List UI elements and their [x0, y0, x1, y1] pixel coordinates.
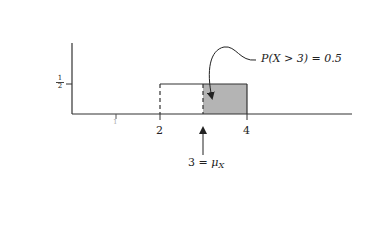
- probability-text: P(X > 3) = 0.5: [261, 52, 342, 65]
- x-tick-label-2: 2: [156, 124, 163, 137]
- fraction-denominator: 2: [56, 83, 64, 90]
- x-tick-label-4: 4: [243, 124, 250, 137]
- shaded-region: [203, 84, 247, 114]
- probability-annotation: P(X > 3) = 0.5: [261, 52, 342, 65]
- mean-label-prefix: 3 =: [188, 156, 211, 169]
- mean-label: 3 = μX: [188, 156, 224, 170]
- y-tick-label-half: 1 2: [56, 75, 64, 90]
- mu-subscript: X: [218, 161, 224, 170]
- x-tick-label-1: 1: [113, 118, 117, 126]
